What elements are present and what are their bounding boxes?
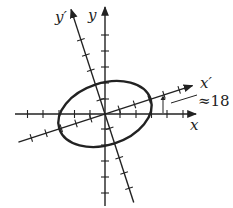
rotated-axes xyxy=(0,0,221,208)
y-label: y xyxy=(87,6,97,24)
rotated-axes-figure: y′ y x′ x ≈18 xyxy=(0,0,233,208)
x-prime-label: x′ xyxy=(200,74,212,92)
angle-label: ≈18 xyxy=(198,92,230,110)
angle-indicator xyxy=(161,95,198,113)
y-prime-label: y′ xyxy=(54,8,67,26)
x-label: x xyxy=(190,116,199,134)
